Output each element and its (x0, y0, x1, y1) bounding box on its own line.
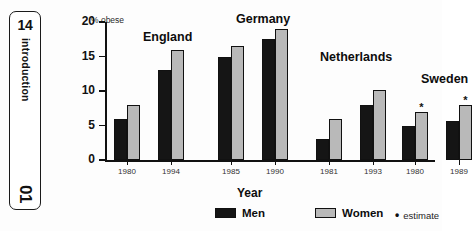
country-label-netherlands: Netherlands (320, 50, 392, 64)
x-axis-tick (373, 160, 374, 165)
x-tick-label: 1980 (107, 167, 147, 176)
y-axis-line (105, 22, 107, 161)
page-section-label: introduction (10, 38, 42, 158)
x-axis-tick (171, 160, 172, 165)
x-axis-tick (459, 160, 460, 165)
y-tick-label: 20 (69, 14, 95, 28)
bar-sweden-1989-women: * (459, 105, 472, 160)
y-tick-label: 0 (69, 152, 95, 166)
y-tick-label: 10 (69, 83, 95, 97)
x-axis-tick (127, 160, 128, 165)
page-tab: 14 introduction 01 (9, 11, 41, 210)
bar-england-1980-women (127, 105, 140, 160)
y-tick-mark (99, 56, 105, 58)
page-section-text: introduction (20, 38, 32, 102)
x-tick-label: 1980 (395, 167, 435, 176)
x-axis-tick (415, 160, 416, 165)
y-tick-mark (99, 90, 105, 92)
page-chapter-text: 01 (15, 185, 35, 203)
x-axis-title: Year (237, 186, 262, 200)
bar-sweden-1980-men (402, 126, 415, 161)
x-tick-label: 1993 (353, 167, 393, 176)
x-axis-tick (329, 160, 330, 165)
x-axis-line (105, 160, 435, 162)
bar-england-1994-men (158, 70, 171, 160)
y-tick-mark (99, 159, 105, 161)
y-tick-label: 5 (69, 118, 95, 132)
x-axis-tick (231, 160, 232, 165)
x-tick-label: 1989 (439, 167, 476, 176)
bar-sweden-1980-women: * (415, 112, 428, 160)
bar-germany-1990-women (275, 29, 288, 160)
bar-sweden-1989-men (446, 121, 459, 160)
country-label-sweden: Sweden (421, 72, 468, 86)
page-chapter-label: 01 (10, 185, 40, 203)
y-axis-unit-label: % obese (91, 15, 124, 25)
y-tick-mark (99, 125, 105, 127)
bar-germany-1990-men (262, 39, 275, 160)
page-number: 14 (10, 17, 40, 33)
x-tick-label: 1990 (255, 167, 295, 176)
x-axis-tick (275, 160, 276, 165)
x-tick-label: 1981 (309, 167, 349, 176)
country-label-germany: Germany (236, 12, 290, 26)
bar-germany-1985-men (218, 57, 231, 161)
bar-england-1980-men (114, 119, 127, 160)
bar-netherlands-1981-women (329, 119, 342, 160)
bar-germany-1985-women (231, 46, 244, 160)
x-tick-label: 1985 (211, 167, 251, 176)
y-tick-label: 15 (69, 49, 95, 63)
estimate-asterisk-icon: * (460, 95, 471, 106)
bar-netherlands-1993-men (360, 105, 373, 160)
bar-netherlands-1993-women (373, 90, 386, 160)
bar-netherlands-1981-men (316, 139, 329, 160)
y-tick-mark (99, 21, 105, 23)
x-tick-label: 1994 (151, 167, 191, 176)
bar-england-1994-women (171, 50, 184, 160)
estimate-asterisk-icon: * (416, 102, 427, 113)
country-label-england: England (143, 30, 192, 44)
